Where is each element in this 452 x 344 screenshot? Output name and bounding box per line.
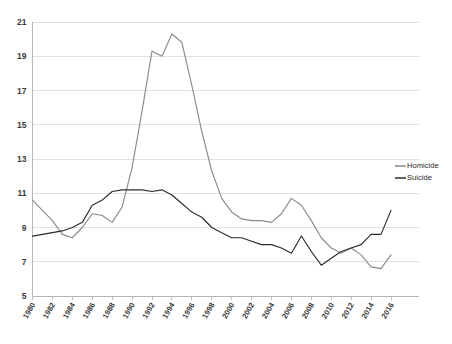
y-axis-tick-label: 5 (22, 291, 27, 301)
y-axis-labels-group: 579111315171921 (17, 17, 27, 301)
x-axis-tick-label: 2008 (300, 301, 316, 320)
legend-label-suicide: Suicide (407, 173, 432, 182)
x-axis-tick-label: 1988 (101, 301, 117, 320)
line-chart: 579111315171921 198019821984198619881990… (0, 0, 452, 344)
y-axis-tick-label: 15 (17, 120, 27, 130)
x-axis-labels-group: 1980198219841986198819901992199419961998… (21, 300, 396, 320)
y-axis-tick-label: 7 (22, 257, 27, 267)
x-axis-tick-label: 1984 (61, 300, 78, 320)
x-axis-tick-label: 1980 (21, 301, 37, 320)
x-axis-tick-label: 2004 (260, 300, 277, 320)
y-axis-tick-label: 21 (17, 17, 27, 27)
x-axis-tick-label: 1996 (180, 301, 196, 320)
legend-label-homicide: Homicide (407, 161, 439, 170)
x-axis-tick-label: 2006 (280, 301, 296, 320)
y-axis-tick-label: 9 (22, 223, 27, 233)
x-axis-tick-label: 2000 (220, 301, 236, 320)
x-axis-tick-label: 1986 (81, 301, 97, 320)
x-axis-tick-label: 2012 (340, 301, 356, 320)
chart-legend: HomicideSuicide (395, 161, 439, 182)
y-axis-tick-label: 19 (17, 51, 27, 61)
x-axis-tick-label: 2014 (360, 300, 377, 320)
y-axis-tick-label: 17 (17, 86, 27, 96)
x-axis-tick-label: 2010 (320, 301, 336, 320)
x-tickmarks-group (33, 296, 392, 300)
x-axis-tick-label: 2016 (379, 301, 395, 320)
x-axis-tick-label: 1990 (121, 301, 137, 320)
x-axis-tick-label: 1998 (200, 301, 216, 320)
series-line-homicide (33, 34, 392, 269)
x-axis-tick-label: 2002 (240, 301, 256, 320)
x-axis-tick-label: 1992 (140, 301, 156, 320)
chart-container: 579111315171921 198019821984198619881990… (0, 0, 452, 344)
y-axis-tick-label: 13 (17, 154, 27, 164)
x-axis-tick-label: 1982 (41, 301, 57, 320)
x-axis-tick-label: 1994 (160, 300, 177, 320)
data-series-group (33, 34, 392, 269)
y-axis-tick-label: 11 (18, 188, 27, 198)
